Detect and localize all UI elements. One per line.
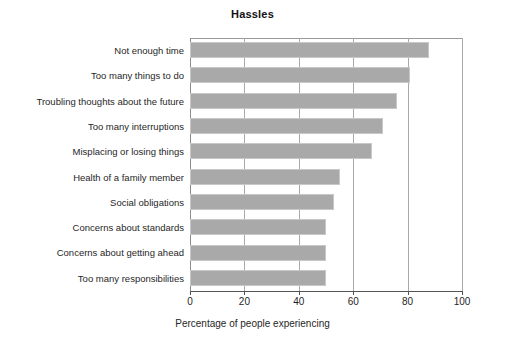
bar-4 [190, 143, 372, 159]
x-axis-title: Percentage of people experiencing [0, 318, 505, 329]
bar-row [190, 89, 462, 114]
y-axis-category-labels: Not enough time Too many things to do Tr… [0, 38, 184, 291]
bar-row [190, 38, 462, 63]
y-axis-label-2: Troubling thoughts about the future [0, 89, 184, 114]
bar-8 [190, 245, 326, 261]
bar-row [190, 114, 462, 139]
bar-6 [190, 194, 334, 210]
bar-row [190, 215, 462, 240]
chart-figure: Hassles Not enough time Too many things … [0, 0, 505, 349]
plot-area [190, 38, 462, 291]
x-tick-label-0: 0 [170, 296, 210, 307]
bar-row [190, 63, 462, 88]
bar-row [190, 190, 462, 215]
bar-5 [190, 169, 340, 185]
y-axis-label-5: Health of a family member [0, 165, 184, 190]
x-tick-label-40: 40 [279, 296, 319, 307]
bar-row [190, 164, 462, 189]
y-axis-label-0: Not enough time [0, 38, 184, 63]
bar-2 [190, 93, 397, 109]
bar-0 [190, 42, 429, 58]
x-tick-label-60: 60 [333, 296, 373, 307]
bar-row [190, 266, 462, 291]
bar-9 [190, 270, 326, 286]
x-tick-60 [353, 291, 354, 295]
x-tick-100 [462, 291, 463, 295]
y-axis-label-7: Concerns about standards [0, 215, 184, 240]
bar-series [190, 38, 462, 291]
y-axis-label-6: Social obligations [0, 190, 184, 215]
bar-1 [190, 67, 410, 83]
x-axis-line [190, 291, 462, 292]
y-axis-label-1: Too many things to do [0, 63, 184, 88]
chart-title: Hassles [0, 8, 505, 20]
y-axis-label-3: Too many interruptions [0, 114, 184, 139]
gridline-100 [462, 38, 463, 291]
x-tick-40 [299, 291, 300, 295]
x-tick-20 [244, 291, 245, 295]
x-tick-0 [190, 291, 191, 295]
y-axis-label-9: Too many responsibilities [0, 266, 184, 291]
bar-7 [190, 219, 326, 235]
bar-row [190, 240, 462, 265]
x-tick-label-100: 100 [442, 296, 482, 307]
x-tick-label-20: 20 [224, 296, 264, 307]
y-axis-label-8: Concerns about getting ahead [0, 240, 184, 265]
bar-row [190, 139, 462, 164]
x-tick-label-80: 80 [388, 296, 428, 307]
x-tick-80 [408, 291, 409, 295]
bar-3 [190, 118, 383, 134]
y-axis-label-4: Misplacing or losing things [0, 139, 184, 164]
